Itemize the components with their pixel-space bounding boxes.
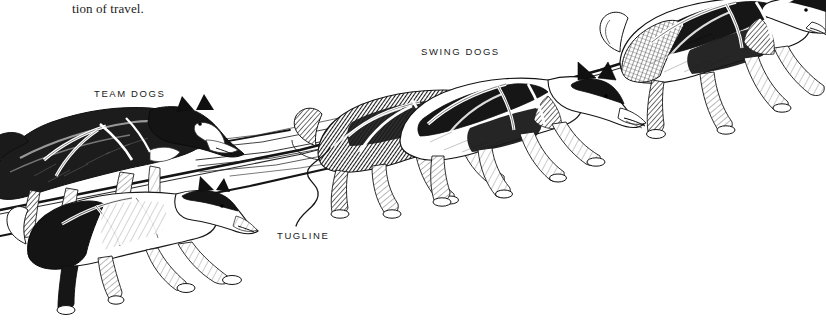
sled-dog-team-illustration [0, 0, 826, 325]
dog-team-lower-left [7, 176, 258, 315]
dog-swing-front [400, 62, 646, 206]
label-team-dogs: TEAM DOGS [94, 88, 165, 99]
label-tugline: TUGLINE [277, 230, 329, 241]
illustration-page: tion of travel. [0, 0, 826, 325]
label-swing-dogs: SWING DOGS [421, 46, 500, 57]
